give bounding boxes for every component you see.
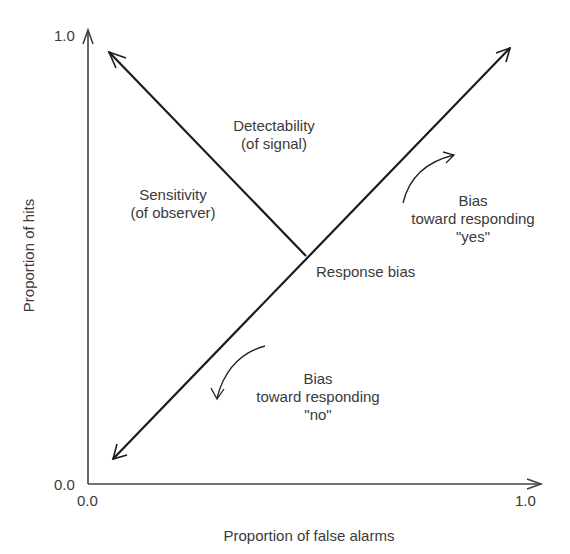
y-axis: [83, 30, 93, 484]
detectability-line2: (of signal): [214, 135, 334, 153]
bias-no-line3: "no": [243, 406, 393, 424]
bias-no-line1: Bias: [243, 370, 393, 388]
y-axis-label: Proportion of hits: [20, 186, 37, 326]
bias-yes-line2: toward responding: [398, 210, 548, 228]
y-tick-max: 1.0: [54, 27, 75, 44]
detectability-line1: Detectability: [214, 117, 334, 135]
x-axis-label: Proportion of false alarms: [206, 527, 412, 545]
bias-no-label: Bias toward responding "no": [243, 370, 393, 424]
sensitivity-line1: Sensitivity: [118, 186, 228, 204]
sensitivity-label: Sensitivity (of observer): [118, 186, 228, 222]
bias-no-line2: toward responding: [243, 388, 393, 406]
y-tick-min: 0.0: [54, 476, 75, 493]
sensitivity-line: [109, 52, 306, 256]
response-bias-label: Response bias: [316, 263, 415, 281]
x-tick-max: 1.0: [515, 492, 536, 509]
x-axis: [88, 479, 541, 489]
bias-yes-line3: "yes": [398, 228, 548, 246]
x-tick-min: 0.0: [77, 492, 98, 509]
detectability-label: Detectability (of signal): [214, 117, 334, 153]
bias-yes-line1: Bias: [398, 192, 548, 210]
sensitivity-line2: (of observer): [118, 204, 228, 222]
diagram-canvas: [0, 0, 570, 554]
bias-yes-label: Bias toward responding "yes": [398, 192, 548, 246]
